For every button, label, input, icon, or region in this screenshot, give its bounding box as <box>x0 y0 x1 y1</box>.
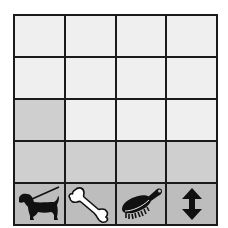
brush-icon <box>118 185 164 223</box>
dog-button[interactable] <box>15 184 64 224</box>
bone-button[interactable] <box>66 184 115 224</box>
grid-cell-r1-c2[interactable] <box>66 16 115 56</box>
bone-icon <box>67 185 113 223</box>
grid-cell-r3-c3[interactable] <box>117 100 166 140</box>
grid-cell-r3-c2[interactable] <box>66 100 115 140</box>
dog-on-leash-icon <box>16 185 62 223</box>
up-down-arrow-icon <box>169 185 215 223</box>
grid-cell-r2-c1[interactable] <box>15 58 64 98</box>
grid-cell-r1-c1[interactable] <box>15 16 64 56</box>
grid-cell-r4-c1[interactable] <box>15 142 64 182</box>
game-board <box>13 14 218 226</box>
grid-cell-r2-c4[interactable] <box>167 58 216 98</box>
grid-cell-r1-c4[interactable] <box>167 16 216 56</box>
grid-cell-r4-c4[interactable] <box>167 142 216 182</box>
grid-cell-r3-c1[interactable] <box>15 100 64 140</box>
move-button[interactable] <box>167 184 216 224</box>
grid-cell-r2-c2[interactable] <box>66 58 115 98</box>
grid-cell-r1-c3[interactable] <box>117 16 166 56</box>
grid-cell-r2-c3[interactable] <box>117 58 166 98</box>
grid-cell-r3-c4[interactable] <box>167 100 216 140</box>
grid-cell-r4-c3[interactable] <box>117 142 166 182</box>
grid-cell-r4-c2[interactable] <box>66 142 115 182</box>
brush-button[interactable] <box>117 184 166 224</box>
